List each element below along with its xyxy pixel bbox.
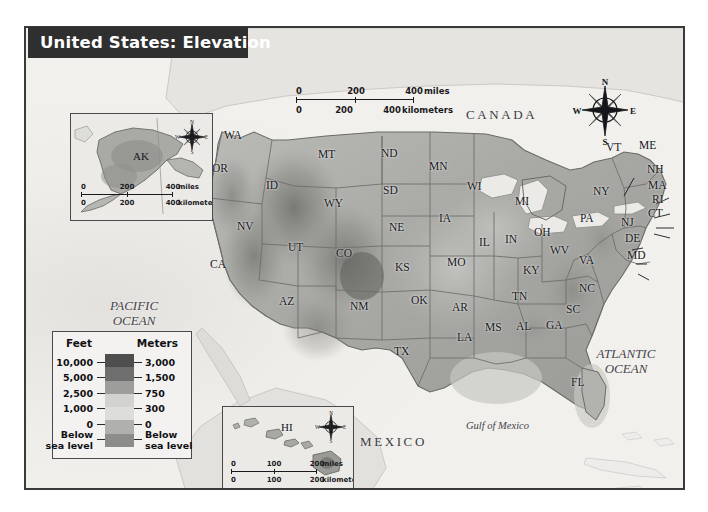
legend-header-meters: Meters xyxy=(137,337,178,349)
state-label-nc: NC xyxy=(579,283,595,295)
state-label-ia: IA xyxy=(439,213,451,225)
legend-swatch-3 xyxy=(105,394,134,407)
legend-tick-right-0 xyxy=(134,362,142,363)
state-label-ms: MS xyxy=(485,322,502,334)
state-label-mn: MN xyxy=(429,161,448,173)
svg-text:N: N xyxy=(329,411,333,416)
svg-text:E: E xyxy=(630,106,636,116)
state-label-de: DE xyxy=(625,233,640,245)
hawaii-label: HI xyxy=(281,421,293,433)
legend-feet-1: 5,000 xyxy=(63,373,93,383)
state-label-nj: NJ xyxy=(621,217,634,229)
svg-text:N: N xyxy=(602,77,609,87)
state-label-tx: TX xyxy=(394,346,409,358)
svg-text:N: N xyxy=(190,120,194,125)
svg-text:W: W xyxy=(175,134,181,140)
state-label-il: IL xyxy=(479,237,490,249)
state-label-sc: SC xyxy=(566,304,580,316)
state-label-wv: WV xyxy=(550,245,569,257)
svg-text:S: S xyxy=(602,137,607,146)
ocean-label-atlantic: ATLANTIC OCEAN xyxy=(571,346,681,377)
state-label-ca: CA xyxy=(210,259,226,271)
alaska-scale-bar: 0 200 400 miles 0 200 400 kilometers xyxy=(81,182,173,207)
legend-tick-left-5 xyxy=(97,439,105,440)
legend-feet-4: 0 xyxy=(86,420,93,430)
state-label-nv: NV xyxy=(237,221,254,233)
state-label-co: CO xyxy=(336,248,352,260)
ocean-label-pacific: PACIFIC OCEAN xyxy=(84,298,184,329)
state-label-ny: NY xyxy=(593,186,610,198)
legend-meters-below-line2: sea level xyxy=(145,441,192,452)
legend-swatch-0 xyxy=(105,354,134,367)
state-label-ut: UT xyxy=(288,242,303,254)
state-label-ga: GA xyxy=(546,320,563,332)
state-label-va: VA xyxy=(579,255,594,267)
state-label-al: AL xyxy=(516,321,531,333)
legend-swatch-2 xyxy=(105,381,134,394)
state-label-sd: SD xyxy=(383,185,398,197)
main-scale-bar: 0 200 400 miles 0 200 400 kilometers xyxy=(296,85,416,115)
legend-feet-0: 10,000 xyxy=(56,358,93,368)
svg-text:W: W xyxy=(573,106,582,116)
state-label-oh: OH xyxy=(534,227,551,239)
state-label-wa: WA xyxy=(224,130,242,142)
state-label-wi: WI xyxy=(467,181,482,193)
state-label-md: MD xyxy=(627,250,646,262)
legend-feet-3: 1,000 xyxy=(63,404,93,414)
legend-feet-2: 2,500 xyxy=(63,389,93,399)
legend-header: Feet Meters xyxy=(53,337,191,349)
legend-feet-below-line2: sea level xyxy=(46,441,93,452)
state-label-nm: NM xyxy=(350,301,369,313)
state-label-pa: PA xyxy=(580,213,594,225)
state-label-or: OR xyxy=(212,163,228,175)
legend-tick-left-2 xyxy=(97,393,105,394)
alaska-compass-rose: NS WE xyxy=(175,120,209,154)
legend-tick-right-3 xyxy=(134,408,142,409)
legend-swatch-5 xyxy=(105,420,134,433)
hawaii-compass-rose: NS WE xyxy=(315,411,347,443)
map-page: AK NS WE xyxy=(0,0,708,512)
legend-header-feet: Feet xyxy=(66,337,92,349)
svg-text:S: S xyxy=(330,438,333,443)
svg-text:E: E xyxy=(343,424,346,430)
legend-meters-0: 3,000 xyxy=(145,358,175,368)
water-label-gulf-of-mexico: Gulf of Mexico xyxy=(466,421,529,432)
state-label-mo: MO xyxy=(447,257,466,269)
state-label-la: LA xyxy=(457,332,472,344)
legend-meters-2: 750 xyxy=(145,389,165,399)
state-label-ct: CT xyxy=(648,208,663,220)
legend-tick-left-4 xyxy=(97,424,105,425)
state-label-ma: MA xyxy=(648,180,667,192)
legend-meters-1: 1,500 xyxy=(145,373,175,383)
state-label-az: AZ xyxy=(279,296,294,308)
elevation-legend: Feet Meters 10,0003,0005,0001,5002,50075… xyxy=(52,331,192,459)
main-compass-rose: N S W E xyxy=(572,76,638,146)
state-label-ks: KS xyxy=(395,262,410,274)
country-label-mexico: MEXICO xyxy=(360,435,427,448)
legend-tick-left-1 xyxy=(97,377,105,378)
alaska-label: AK xyxy=(133,150,149,162)
legend-meters-3: 300 xyxy=(145,404,165,414)
state-label-mt: MT xyxy=(318,149,335,161)
state-label-ky: KY xyxy=(523,265,540,277)
svg-text:W: W xyxy=(315,424,320,430)
state-label-ri: RI xyxy=(652,194,664,206)
state-label-mi: MI xyxy=(515,196,529,208)
alaska-inset: AK NS WE xyxy=(70,113,213,221)
legend-feet-5: Belowsea level xyxy=(46,430,93,451)
state-label-ok: OK xyxy=(411,295,428,307)
page-title: United States: Elevation xyxy=(40,33,271,52)
legend-color-ramp xyxy=(105,354,134,447)
country-label-canada: CANADA xyxy=(466,108,537,121)
legend-tick-right-4 xyxy=(134,424,142,425)
map-title-banner: United States: Elevation xyxy=(28,27,248,58)
state-label-me: ME xyxy=(639,140,656,152)
legend-swatch-6 xyxy=(105,434,134,447)
state-label-in: IN xyxy=(505,234,517,246)
svg-text:S: S xyxy=(190,149,193,155)
state-label-nh: NH xyxy=(647,164,664,176)
hawaii-inset: HI NS WE xyxy=(222,406,354,490)
legend-tick-left-3 xyxy=(97,408,105,409)
legend-meters-5: Belowsea level xyxy=(145,430,192,451)
legend-swatch-1 xyxy=(105,367,134,380)
